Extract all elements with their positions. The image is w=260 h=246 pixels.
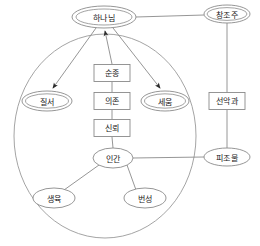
edge-god-order (53, 28, 96, 88)
node-obedience-label: 순종 (105, 69, 119, 78)
node-fruitful[interactable]: 생육 (33, 188, 75, 208)
node-obedience[interactable]: 순종 (94, 65, 130, 82)
node-multiply[interactable]: 번성 (124, 188, 166, 208)
node-creator-label: 창조주 (216, 11, 238, 20)
edge-obedience-god (105, 31, 112, 64)
node-build-label: 세움 (158, 98, 172, 107)
node-fruit[interactable]: 선악과 (209, 93, 245, 110)
node-fruit-label: 선악과 (216, 96, 238, 106)
diagram-canvas: 하나님 창조주 질서 세움 순종 의존 (0, 0, 260, 246)
node-trust[interactable]: 신뢰 (94, 120, 130, 137)
node-creator[interactable]: 창조주 (204, 5, 250, 23)
edge-god-creator (136, 15, 204, 17)
node-trust-label: 신뢰 (105, 124, 119, 133)
node-order[interactable]: 질서 (22, 91, 72, 111)
node-dependence-label: 의존 (105, 96, 119, 106)
node-human-label: 인간 (106, 154, 121, 164)
node-build[interactable]: 세움 (141, 91, 189, 111)
node-creature-label: 피조물 (216, 154, 238, 163)
edge-human-multiply (127, 165, 136, 190)
edge-human-trust (112, 137, 113, 148)
diagram-svg: 하나님 창조주 질서 세움 순종 의존 (0, 0, 260, 246)
node-fruitful-label: 생육 (47, 194, 61, 204)
node-creature[interactable]: 피조물 (204, 148, 250, 166)
node-human[interactable]: 인간 (93, 148, 133, 168)
node-multiply-label: 번성 (138, 195, 152, 204)
node-god[interactable]: 하나님 (72, 6, 136, 28)
edge-human-fruitful (64, 165, 99, 190)
edge-layer (53, 15, 227, 190)
node-order-label: 질서 (40, 98, 54, 107)
node-god-label: 하나님 (93, 13, 115, 23)
node-dependence[interactable]: 의존 (94, 93, 130, 110)
edge-human-creature (133, 157, 204, 158)
